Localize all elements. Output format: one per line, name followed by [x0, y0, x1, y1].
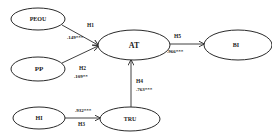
- node-hi: HI: [13, 107, 65, 129]
- h2-label: H2: [79, 65, 86, 71]
- h3-coefficient: .932***: [75, 108, 92, 113]
- h4-coefficient: .763***: [136, 87, 153, 92]
- node-bi: BI: [204, 30, 272, 60]
- h5-label: H5: [174, 33, 181, 39]
- node-at: AT: [98, 30, 170, 60]
- node-pp: PP: [11, 57, 65, 81]
- h1-coefficient: .149***: [67, 35, 84, 40]
- node-peou-label: PEOU: [30, 16, 47, 22]
- node-peou: PEOU: [11, 8, 65, 30]
- node-bi-label: BI: [233, 42, 240, 48]
- node-at-label: AT: [129, 41, 140, 50]
- h2-coefficient: .109**: [74, 74, 88, 79]
- h5-coefficient: .966***: [167, 49, 184, 54]
- h1-label: H1: [87, 22, 94, 28]
- structural-model-diagram: PEOU PP HI AT BI TRU H1 .149*** H2 .109*…: [0, 0, 272, 135]
- h3-label: H3: [78, 121, 85, 127]
- node-hi-label: HI: [35, 115, 43, 121]
- node-tru-label: TRU: [124, 116, 137, 122]
- h4-label: H4: [136, 78, 143, 84]
- edge-pp-to-at: [62, 46, 98, 63]
- node-pp-label: PP: [35, 65, 44, 73]
- node-tru: TRU: [100, 107, 160, 131]
